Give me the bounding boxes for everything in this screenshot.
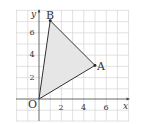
x-axis-label: x <box>123 101 128 111</box>
y-tick-4: 4 <box>30 50 35 59</box>
triangle-oab <box>39 21 95 99</box>
point-a-marker <box>94 64 97 67</box>
y-axis-arrow-icon <box>38 9 41 13</box>
y-tick-2: 2 <box>30 73 35 82</box>
x-tick-2: 2 <box>59 103 64 112</box>
coordinate-plane: B A O y x 2 4 6 2 4 6 <box>0 0 141 124</box>
point-a-label: A <box>96 60 106 73</box>
x-tick-6: 6 <box>103 103 108 112</box>
y-axis-label: y <box>30 9 37 19</box>
y-tick-6: 6 <box>30 28 35 37</box>
point-b-label: B <box>46 9 54 22</box>
origin-label: O <box>28 98 37 111</box>
x-tick-4: 4 <box>81 103 86 112</box>
